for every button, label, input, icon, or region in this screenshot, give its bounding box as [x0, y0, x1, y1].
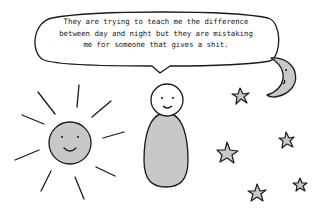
star-icon: [217, 142, 238, 163]
person-figure: [144, 84, 188, 187]
speech-line-2: between day and night but they are mista…: [40, 28, 272, 40]
person-body: [144, 113, 188, 187]
star-icon: [279, 132, 294, 148]
speech-bubble-text: They are trying to teach me the differen…: [40, 16, 272, 51]
star-icon: [293, 178, 307, 191]
star-icon: [232, 88, 249, 104]
stars: [217, 88, 307, 201]
star-icon: [248, 184, 266, 201]
sun-icon: [15, 85, 124, 199]
sun-face: [49, 122, 91, 164]
speech-line-1: They are trying to teach me the differen…: [40, 16, 272, 28]
speech-line-3: me for someone that gives a shit.: [40, 39, 272, 51]
person-head: [151, 84, 183, 116]
moon-icon: [267, 58, 296, 97]
